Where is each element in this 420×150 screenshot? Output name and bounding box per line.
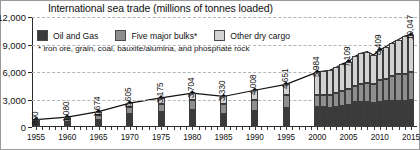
y-axis-tick bbox=[28, 72, 32, 73]
bar-segment-oil-and-gas bbox=[408, 100, 414, 127]
x-axis-tick bbox=[405, 127, 406, 130]
x-axis-tick bbox=[49, 127, 50, 130]
plot-area: 03,0006,0009,00012,000195519601965197019… bbox=[32, 17, 417, 127]
bar-value-label: 800 bbox=[31, 111, 40, 125]
x-axis-tick bbox=[236, 127, 237, 130]
x-axis-tick bbox=[224, 127, 225, 130]
x-axis-tick-label: 2005 bbox=[339, 133, 357, 142]
x-axis-tick bbox=[142, 127, 143, 130]
sea-trade-chart: International sea trade (millions of ton… bbox=[0, 0, 420, 150]
x-axis-tick-label: 1970 bbox=[121, 133, 139, 142]
x-axis-tick-label: 2010 bbox=[371, 133, 389, 142]
x-axis-tick bbox=[86, 127, 87, 130]
y-axis-tick-label: 9,000 bbox=[3, 39, 26, 50]
x-axis-tick bbox=[336, 127, 337, 130]
x-axis-tick bbox=[342, 127, 343, 130]
bar-segment-five-major-bulks bbox=[158, 104, 165, 112]
x-axis-tick bbox=[392, 127, 393, 130]
bar-segment-five-major-bulks bbox=[251, 100, 258, 111]
x-axis-tick bbox=[399, 127, 400, 130]
bar-value-label: 3,704 bbox=[187, 78, 196, 99]
bar-segment-oil-and-gas bbox=[95, 120, 102, 127]
x-axis-tick-label: 1960 bbox=[58, 133, 76, 142]
bar-1980[interactable] bbox=[189, 93, 196, 127]
bar-segment-five-major-bulks bbox=[126, 107, 133, 114]
x-axis-tick bbox=[74, 127, 75, 130]
x-axis-tick bbox=[311, 127, 312, 130]
x-axis-tick-label: 1955 bbox=[27, 133, 45, 142]
x-axis-tick bbox=[167, 127, 168, 130]
x-axis-tick bbox=[267, 127, 268, 130]
x-axis-tick bbox=[61, 127, 62, 130]
x-axis-tick bbox=[349, 127, 350, 130]
bar-segment-oil-and-gas bbox=[126, 114, 133, 127]
chart-title: International sea trade (millions of ton… bbox=[48, 2, 273, 14]
x-axis-tick bbox=[55, 127, 56, 130]
bar-value-label: 2,605 bbox=[124, 88, 133, 109]
gridline bbox=[32, 17, 417, 18]
bar-segment-five-major-bulks bbox=[408, 72, 414, 101]
y-axis-tick bbox=[28, 17, 32, 18]
x-axis-tick bbox=[217, 127, 218, 130]
x-axis-tick bbox=[380, 127, 381, 130]
x-axis-tick-label: 1975 bbox=[152, 133, 170, 142]
bar-value-label: 1,080 bbox=[62, 102, 71, 123]
x-axis-tick bbox=[192, 127, 193, 130]
x-axis-tick-label: 1995 bbox=[277, 133, 295, 142]
x-axis-tick bbox=[42, 127, 43, 130]
y-axis-tick-label: 0 bbox=[21, 122, 26, 133]
x-axis-tick bbox=[155, 127, 156, 130]
bar-value-label: 3,175 bbox=[156, 82, 165, 103]
x-axis-tick bbox=[261, 127, 262, 130]
x-axis-tick bbox=[99, 127, 100, 130]
y-axis-tick bbox=[28, 127, 32, 128]
bar-segment-oil-and-gas bbox=[220, 114, 227, 127]
x-axis-tick bbox=[205, 127, 206, 130]
x-axis-tick bbox=[305, 127, 306, 130]
x-axis-tick bbox=[374, 127, 375, 130]
x-axis-tick bbox=[280, 127, 281, 130]
x-axis-tick bbox=[211, 127, 212, 130]
x-axis-tick bbox=[67, 127, 68, 130]
y-axis-tick bbox=[28, 100, 32, 101]
x-axis-tick bbox=[186, 127, 187, 130]
bar-1985[interactable] bbox=[220, 96, 227, 127]
bar-segment-five-major-bulks bbox=[220, 104, 227, 113]
x-axis-tick bbox=[199, 127, 200, 130]
x-axis-tick-label: 1990 bbox=[246, 133, 264, 142]
bar-value-label: 8,409 bbox=[374, 34, 383, 55]
bar-value-label: 1,674 bbox=[93, 96, 102, 117]
y-axis-tick-label: 6,000 bbox=[3, 67, 26, 78]
bar-value-label: 7,109 bbox=[343, 46, 352, 67]
x-axis-tick bbox=[299, 127, 300, 130]
bar-1995[interactable] bbox=[283, 84, 290, 127]
bar-segment-five-major-bulks bbox=[189, 100, 196, 110]
bar-1990[interactable] bbox=[251, 90, 258, 127]
x-axis-tick bbox=[130, 127, 131, 130]
x-axis-tick bbox=[274, 127, 275, 130]
x-axis-tick bbox=[180, 127, 181, 130]
x-axis-tick bbox=[330, 127, 331, 130]
x-axis-tick bbox=[92, 127, 93, 130]
bar-segment-oil-and-gas bbox=[189, 110, 196, 127]
x-axis-tick bbox=[80, 127, 81, 130]
bar-segment-oil-and-gas bbox=[251, 111, 258, 127]
x-axis-tick bbox=[111, 127, 112, 130]
x-axis-tick bbox=[367, 127, 368, 130]
x-axis-tick bbox=[386, 127, 387, 130]
x-axis-tick bbox=[292, 127, 293, 130]
y-axis-tick bbox=[28, 45, 32, 46]
y-axis-tick-label: 12,000 bbox=[0, 12, 26, 23]
x-axis-tick bbox=[242, 127, 243, 130]
x-axis-tick bbox=[230, 127, 231, 130]
x-axis-tick bbox=[255, 127, 256, 130]
x-axis-tick bbox=[286, 127, 287, 130]
x-axis-tick bbox=[124, 127, 125, 130]
x-axis-tick bbox=[174, 127, 175, 130]
x-axis-tick bbox=[317, 127, 318, 130]
x-axis-tick-label: 2000 bbox=[308, 133, 326, 142]
gridline bbox=[32, 45, 417, 46]
x-axis-tick-label: 1985 bbox=[214, 133, 232, 142]
bar-2015[interactable] bbox=[408, 35, 414, 127]
x-axis-tick bbox=[105, 127, 106, 130]
